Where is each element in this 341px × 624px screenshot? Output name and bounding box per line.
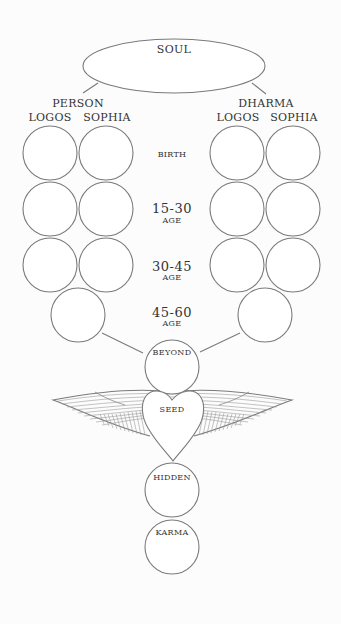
hidden-label: HIDDEN <box>153 474 191 482</box>
person-sophia-30-45-circle <box>79 238 133 292</box>
dharma-logos-15-30-circle <box>210 182 264 236</box>
connector-soul-person <box>83 83 98 93</box>
person-sophia-birth-circle <box>79 126 133 180</box>
dharma-45-60-circle <box>238 288 292 342</box>
beyond-label: BEYOND <box>153 349 192 357</box>
dharma-sophia-header: SOPHIA <box>270 112 318 123</box>
person-logos-birth-circle <box>23 126 77 180</box>
dharma-sophia-birth-circle <box>266 126 320 180</box>
connector-dharma-beyond <box>200 333 240 352</box>
stage-15-30-age-label: AGE <box>163 217 182 225</box>
person-branch-title: PERSON <box>52 98 104 109</box>
stage-30-45-age-label: AGE <box>163 274 182 282</box>
person-sophia-header: SOPHIA <box>83 112 131 123</box>
person-sophia-15-30-circle <box>79 182 133 236</box>
stage-15-30-label: 15-30 <box>152 202 192 215</box>
person-logos-header: LOGOS <box>28 112 71 123</box>
hidden-circle <box>145 463 199 517</box>
connector-soul-dharma <box>252 83 266 94</box>
seed-heart-icon <box>142 391 203 461</box>
dharma-logos-header: LOGOS <box>216 112 259 123</box>
person-logos-30-45-circle <box>23 238 77 292</box>
stage-45-60-age-label: AGE <box>163 320 182 328</box>
connector-person-beyond <box>102 333 143 353</box>
stage-45-60-label: 45-60 <box>152 306 192 319</box>
stage-birth-label: BIRTH <box>158 151 187 159</box>
seed-label: SEED <box>160 406 185 414</box>
person-logos-15-30-circle <box>23 182 77 236</box>
karma-label: KARMA <box>156 529 189 537</box>
dharma-sophia-15-30-circle <box>266 182 320 236</box>
dharma-logos-birth-circle <box>210 126 264 180</box>
soul-label: SOUL <box>157 44 191 55</box>
dharma-sophia-30-45-circle <box>266 238 320 292</box>
stage-30-45-label: 30-45 <box>152 260 192 273</box>
person-45-60-circle <box>51 288 105 342</box>
dharma-logos-30-45-circle <box>210 238 264 292</box>
dharma-branch-title: DHARMA <box>238 98 294 109</box>
